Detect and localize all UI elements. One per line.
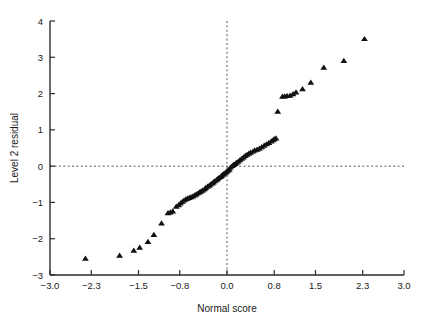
x-tick-label: −1.5 — [129, 280, 148, 291]
qq-plot-figure: −3.0−2.3−1.5−0.80.00.81.52.33.0 −3−2−101… — [0, 0, 426, 325]
data-point-marker — [340, 58, 347, 63]
data-point-marker — [293, 89, 300, 94]
y-tick-label: 0 — [38, 161, 43, 172]
data-point-marker — [150, 232, 157, 237]
data-point-marker — [274, 108, 281, 113]
y-tick-label: 3 — [38, 52, 43, 63]
data-point-marker — [136, 245, 143, 250]
data-point-marker — [158, 220, 165, 225]
reference-lines-group — [50, 21, 404, 275]
scatter-plot-canvas: −3.0−2.3−1.5−0.80.00.81.52.33.0 −3−2−101… — [0, 0, 426, 325]
y-tick-label: −2 — [32, 233, 43, 244]
data-point-marker — [299, 86, 306, 91]
data-point-marker — [116, 253, 123, 258]
data-point-series — [82, 36, 368, 261]
x-tick-label: 0.0 — [220, 280, 233, 291]
x-tick-label: −3.0 — [41, 280, 60, 291]
x-tick-label: −2.3 — [82, 280, 101, 291]
y-tick-label: −3 — [32, 270, 43, 281]
data-point-marker — [82, 255, 89, 260]
x-tick-label: −0.8 — [170, 280, 189, 291]
x-tick-label: 1.5 — [309, 280, 322, 291]
y-axis-title: Level 2 residual — [9, 113, 20, 183]
x-tick-label: 3.0 — [397, 280, 410, 291]
x-tick-label: 2.3 — [356, 280, 369, 291]
data-point-marker — [307, 79, 314, 84]
x-axis-title: Normal score — [197, 303, 257, 314]
y-tick-label: 4 — [38, 16, 43, 27]
y-axis-ticks: −3−2−101234 — [32, 16, 55, 281]
y-tick-label: 2 — [38, 88, 43, 99]
x-tick-label: 0.8 — [268, 280, 281, 291]
data-point-marker — [320, 65, 327, 70]
x-axis-ticks: −3.0−2.3−1.5−0.80.00.81.52.33.0 — [41, 270, 411, 291]
y-tick-label: 1 — [38, 124, 43, 135]
y-tick-label: −1 — [32, 197, 43, 208]
data-point-marker — [361, 36, 368, 41]
data-point-marker — [130, 247, 137, 252]
data-point-marker — [145, 239, 152, 244]
